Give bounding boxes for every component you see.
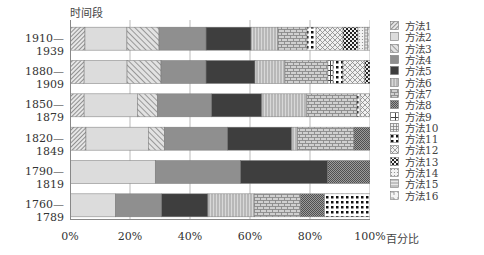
bar-segment <box>164 127 227 150</box>
bar-segment <box>360 94 370 117</box>
bar-segment <box>148 127 164 150</box>
legend-swatch-icon <box>390 134 399 143</box>
bar-segment <box>240 161 327 184</box>
legend-swatch-icon <box>390 123 399 132</box>
category-label: 1880—1909 <box>0 65 64 91</box>
bar-segment <box>328 61 333 84</box>
bar-segment <box>155 161 240 184</box>
legend-swatch-icon <box>390 89 399 98</box>
bar-segment <box>251 27 278 50</box>
legend-swatch-icon <box>390 157 399 166</box>
bar-segment <box>70 127 86 150</box>
bar-segment <box>333 61 343 84</box>
bar-segment <box>85 27 127 50</box>
bar-segment <box>325 194 370 217</box>
bar-segment <box>228 127 292 150</box>
bar-segment <box>70 161 155 184</box>
bar-segment <box>70 194 115 217</box>
bar-segment <box>159 27 206 50</box>
bar-segment <box>255 61 285 84</box>
bar-segment <box>328 161 370 184</box>
legend-swatch-icon <box>390 44 399 53</box>
bar-segment <box>285 61 328 84</box>
bar-segment <box>292 127 298 150</box>
x-tick-label: 40% <box>178 230 202 243</box>
bar-segment <box>206 61 255 84</box>
legend-swatch-icon <box>390 145 399 154</box>
bar-segment <box>161 61 206 84</box>
bar-segment <box>365 61 370 84</box>
bar-segment <box>354 127 370 150</box>
x-tick-label: 80% <box>298 230 322 243</box>
legend-swatch-icon <box>390 179 399 188</box>
x-tick-label: 0% <box>61 230 78 243</box>
bar-segment <box>358 27 365 50</box>
bar-segment <box>70 27 85 50</box>
bar-segment <box>84 61 127 84</box>
bar-segment <box>157 94 211 117</box>
bar-segment <box>307 94 357 117</box>
legend-swatch-icon <box>390 66 399 75</box>
bar-segment <box>357 94 360 117</box>
category-label: 1790—1819 <box>0 165 64 191</box>
legend-swatch-icon <box>390 21 399 30</box>
bar-segment <box>162 194 208 217</box>
bar-segment <box>365 27 368 50</box>
bar-segment <box>343 61 365 84</box>
bar-segment <box>127 61 161 84</box>
bar-segment <box>368 27 370 50</box>
bar-segment <box>127 27 159 50</box>
legend-swatch-icon <box>390 168 399 177</box>
bar-segment <box>212 94 262 117</box>
category-label: 1820—1849 <box>0 132 64 158</box>
legend-swatch-icon <box>390 112 399 121</box>
legend-item: 方法16 <box>390 189 438 200</box>
bar-segment <box>300 194 324 217</box>
x-axis-title: 百分比 <box>386 230 419 246</box>
legend-swatch-icon <box>390 191 399 200</box>
legend-swatch-icon <box>390 100 399 109</box>
legend-label: 方法16 <box>405 188 438 203</box>
legend-swatch-icon <box>390 78 399 87</box>
bar-segment <box>298 127 354 150</box>
bar-segment <box>307 27 316 50</box>
x-tick-label: 20% <box>118 230 142 243</box>
bar-segment <box>115 194 161 217</box>
bar-segment <box>208 194 254 217</box>
legend-swatch-icon <box>390 32 399 41</box>
legend: 方法1方法2方法3方法4方法5方法6方法7方法8方法9方法10方法11方法12方… <box>390 20 438 201</box>
legend-swatch-icon <box>390 55 399 64</box>
bar-segment <box>137 94 157 117</box>
bar-segment <box>262 94 307 117</box>
x-tick-label: 100% <box>354 230 385 243</box>
category-label: 1910—1939 <box>0 32 64 58</box>
bar-segment <box>84 94 137 117</box>
category-label: 1760—1789 <box>0 198 64 224</box>
bar-segment <box>70 61 84 84</box>
bar-segment <box>278 27 307 50</box>
bar-segment <box>86 127 148 150</box>
category-label: 1850—1879 <box>0 98 64 124</box>
bar-segment <box>206 27 251 50</box>
bar-segment <box>70 94 84 117</box>
bar-segment <box>254 194 300 217</box>
y-axis-title: 时间段 <box>70 4 103 20</box>
bar-segment <box>316 27 343 50</box>
chart-plot <box>70 20 370 220</box>
bar-segment <box>343 27 358 50</box>
x-tick-label: 60% <box>238 230 262 243</box>
